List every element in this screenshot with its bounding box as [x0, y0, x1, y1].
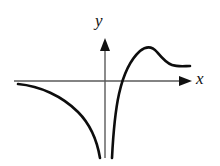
curve-right-branch — [112, 47, 190, 158]
x-axis-arrowhead-icon — [179, 76, 192, 86]
plot-canvas — [0, 0, 220, 166]
curve-left-branch — [18, 84, 100, 158]
y-axis-label: y — [95, 12, 103, 29]
x-axis-label: x — [196, 70, 204, 87]
function-graph-figure: y x — [0, 0, 220, 166]
y-axis-arrowhead-icon — [100, 38, 110, 51]
